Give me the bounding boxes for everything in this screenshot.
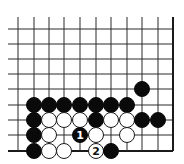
black-stone [120, 98, 135, 113]
white-stone [42, 113, 57, 128]
black-stone [27, 113, 42, 128]
white-stone-move-2: 2 [89, 144, 104, 159]
stone-circle [27, 113, 42, 128]
black-stone [27, 144, 42, 159]
black-stone-move-1: 1 [73, 128, 88, 143]
black-stone [104, 144, 119, 159]
white-stone [120, 128, 135, 143]
stone-circle [73, 113, 88, 128]
black-stone [89, 98, 104, 113]
stone-circle [135, 113, 150, 128]
black-stone [27, 98, 42, 113]
black-stone [135, 82, 150, 97]
stone-circle [42, 144, 57, 159]
stone-circle [89, 113, 104, 128]
move-number-label: 1 [76, 129, 84, 142]
stone-circle [135, 82, 150, 97]
go-board: 12 [0, 0, 184, 164]
stone-circle [73, 98, 88, 113]
stone-circle [89, 128, 104, 143]
white-stone [104, 113, 119, 128]
stone-circle [57, 98, 72, 113]
stone-circle [104, 144, 119, 159]
stone-circle [57, 113, 72, 128]
stone-circle [57, 144, 72, 159]
stone-circle [42, 113, 57, 128]
white-stone [57, 113, 72, 128]
black-stone [89, 113, 104, 128]
white-stone [42, 144, 57, 159]
stone-circle [151, 113, 166, 128]
white-stone [42, 128, 57, 143]
white-stone [120, 113, 135, 128]
black-stone [135, 113, 150, 128]
black-stone [151, 113, 166, 128]
white-stone [89, 128, 104, 143]
stone-circle [104, 113, 119, 128]
stone-circle [27, 128, 42, 143]
stone-circle [120, 113, 135, 128]
stone-circle [120, 128, 135, 143]
stone-circle [120, 98, 135, 113]
stone-circle [89, 98, 104, 113]
stone-circle [27, 98, 42, 113]
black-stone [104, 98, 119, 113]
black-stone [27, 128, 42, 143]
black-stone [57, 98, 72, 113]
black-stone [42, 98, 57, 113]
white-stone [57, 144, 72, 159]
stone-circle [27, 144, 42, 159]
stone-circle [42, 128, 57, 143]
white-stone [73, 113, 88, 128]
move-number-label: 2 [92, 145, 100, 158]
stone-circle [104, 98, 119, 113]
stone-circle [42, 98, 57, 113]
black-stone [73, 98, 88, 113]
